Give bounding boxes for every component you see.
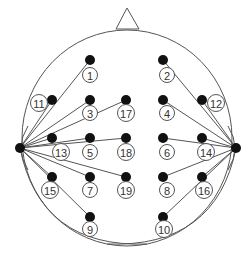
electrode-dot — [47, 133, 57, 143]
right-reference-node — [231, 143, 241, 153]
electrode-dot — [85, 95, 95, 105]
electrode-label: 8 — [164, 185, 170, 197]
electrode-dot — [85, 172, 95, 182]
electrode-12: 12 — [197, 95, 225, 112]
electrode-dot — [121, 95, 131, 105]
electrodes: 12113174121351861415719816910 — [31, 55, 225, 238]
electrode-label: 11 — [33, 98, 44, 110]
electrode-dot — [121, 172, 131, 182]
electrode-7: 7 — [83, 172, 98, 198]
electrode-label: 4 — [164, 108, 170, 120]
electrode-dot — [158, 55, 168, 65]
electrode-label: 17 — [120, 108, 132, 120]
electrode-label: 16 — [198, 185, 210, 197]
left-reference-node — [15, 143, 25, 153]
electrode-9: 9 — [83, 212, 98, 237]
electrode-3: 3 — [83, 95, 98, 121]
electrode-dot — [197, 95, 207, 105]
electrode-11: 11 — [31, 95, 58, 112]
electrode-dot — [197, 133, 207, 143]
electrode-label: 7 — [87, 185, 93, 197]
electrode-dot — [121, 133, 131, 143]
electrode-label: 14 — [200, 147, 212, 159]
electrode-17: 17 — [118, 95, 135, 122]
eeg-montage-diagram: 12113174121351861415719816910 — [0, 0, 248, 253]
electrode-label: 15 — [44, 185, 56, 197]
electrode-2: 2 — [158, 55, 175, 83]
electrode-label: 5 — [87, 147, 93, 159]
nose-icon — [116, 8, 139, 29]
electrode-1: 1 — [83, 55, 98, 83]
electrode-6: 6 — [158, 133, 175, 160]
electrode-dot — [85, 55, 95, 65]
electrode-label: 3 — [87, 108, 93, 120]
electrode-label: 1 — [87, 70, 93, 82]
electrode-8: 8 — [158, 172, 175, 198]
electrode-dot — [47, 95, 57, 105]
electrode-16: 16 — [196, 172, 213, 199]
electrode-dot — [158, 95, 168, 105]
electrode-label: 18 — [120, 147, 132, 159]
electrode-label: 6 — [164, 147, 170, 159]
electrode-14: 14 — [197, 133, 215, 161]
electrode-label: 9 — [87, 224, 93, 236]
electrode-label: 19 — [120, 185, 132, 197]
electrode-dot — [47, 172, 57, 182]
electrode-label: 10 — [158, 224, 170, 236]
electrode-dot — [85, 212, 95, 222]
electrode-5: 5 — [83, 133, 98, 160]
electrode-label: 12 — [210, 98, 222, 110]
electrode-18: 18 — [118, 133, 135, 161]
nose-triangle-icon — [116, 8, 139, 29]
electrode-10: 10 — [156, 212, 173, 238]
electrode-15: 15 — [42, 172, 59, 199]
electrode-dot — [85, 133, 95, 143]
electrode-label: 2 — [164, 70, 170, 82]
electrode-dot — [158, 133, 168, 143]
electrode-label: 13 — [55, 147, 67, 159]
electrode-4: 4 — [158, 95, 175, 121]
electrode-dot — [197, 172, 207, 182]
electrode-19: 19 — [118, 172, 135, 199]
electrode-dot — [158, 172, 168, 182]
